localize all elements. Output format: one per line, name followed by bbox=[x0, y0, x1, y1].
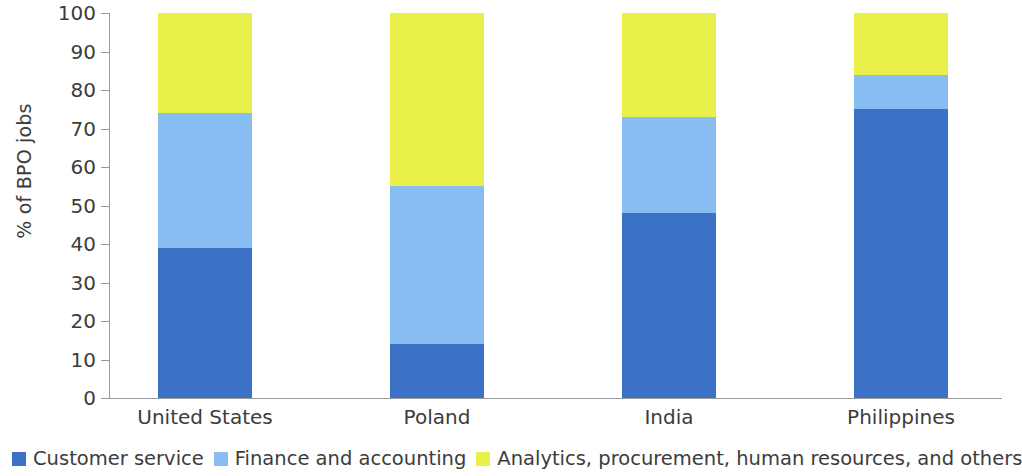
bar-segment-customer-service[interactable] bbox=[390, 344, 484, 398]
tick-mark bbox=[101, 129, 109, 130]
bar-segment-finance-and-accounting[interactable] bbox=[390, 186, 484, 344]
bar-segment-analytics-other[interactable] bbox=[854, 13, 948, 75]
y-tick-label: 30 bbox=[71, 273, 96, 293]
tick-mark bbox=[101, 90, 109, 91]
y-tick-label: 0 bbox=[83, 388, 96, 408]
y-tick-label: 80 bbox=[71, 80, 96, 100]
tick-mark bbox=[101, 360, 109, 361]
legend-swatch-icon bbox=[476, 452, 490, 466]
legend-swatch-icon bbox=[12, 452, 26, 466]
bar-group-poland: Poland bbox=[390, 13, 484, 398]
y-tick-label: 90 bbox=[71, 42, 96, 62]
bar-group-india: India bbox=[622, 13, 716, 398]
legend-label: Finance and accounting bbox=[235, 449, 467, 469]
plot-area: 0 10 20 30 40 50 60 70 bbox=[109, 13, 1002, 398]
bar-group-united-states: United States bbox=[158, 13, 252, 398]
tick-mark bbox=[101, 52, 109, 53]
legend-swatch-icon bbox=[214, 452, 228, 466]
y-axis-title: % of BPO jobs bbox=[13, 81, 35, 261]
bar-stack bbox=[854, 13, 948, 398]
bar-stack bbox=[390, 13, 484, 398]
tick-mark bbox=[101, 398, 109, 399]
legend-item-finance-and-accounting[interactable]: Finance and accounting bbox=[214, 449, 467, 469]
bar-segment-analytics-other[interactable] bbox=[158, 13, 252, 113]
y-tick-label: 100 bbox=[58, 3, 96, 23]
tick-mark bbox=[101, 244, 109, 245]
chart-legend: Customer service Finance and accounting … bbox=[12, 449, 1022, 469]
y-tick-label: 70 bbox=[71, 119, 96, 139]
tick-mark bbox=[101, 13, 109, 14]
bar-segment-customer-service[interactable] bbox=[854, 109, 948, 398]
legend-item-customer-service[interactable]: Customer service bbox=[12, 449, 204, 469]
bar-stack bbox=[622, 13, 716, 398]
bar-segment-customer-service[interactable] bbox=[158, 248, 252, 398]
bar-stack bbox=[158, 13, 252, 398]
tick-mark bbox=[101, 283, 109, 284]
bar-segment-customer-service[interactable] bbox=[622, 213, 716, 398]
x-axis-label-united-states: United States bbox=[137, 405, 272, 429]
legend-label: Customer service bbox=[33, 449, 204, 469]
y-tick-label: 50 bbox=[71, 196, 96, 216]
y-tick-label: 40 bbox=[71, 234, 96, 254]
y-tick-label: 60 bbox=[71, 157, 96, 177]
y-axis-line bbox=[109, 13, 110, 398]
x-axis-label-india: India bbox=[644, 405, 693, 429]
bar-segment-analytics-other[interactable] bbox=[390, 13, 484, 186]
legend-item-analytics-other[interactable]: Analytics, procurement, human resources,… bbox=[476, 449, 1022, 469]
bar-group-philippines: Philippines bbox=[854, 13, 948, 398]
tick-mark bbox=[101, 206, 109, 207]
legend-label: Analytics, procurement, human resources,… bbox=[497, 449, 1022, 469]
bar-segment-finance-and-accounting[interactable] bbox=[158, 113, 252, 248]
bar-segment-analytics-other[interactable] bbox=[622, 13, 716, 117]
x-axis-label-poland: Poland bbox=[404, 405, 471, 429]
x-axis-label-philippines: Philippines bbox=[847, 405, 955, 429]
bar-segment-finance-and-accounting[interactable] bbox=[854, 75, 948, 110]
y-tick-label: 10 bbox=[71, 350, 96, 370]
bar-segment-finance-and-accounting[interactable] bbox=[622, 117, 716, 213]
x-axis-line bbox=[101, 398, 1002, 399]
tick-mark bbox=[101, 167, 109, 168]
y-tick-label: 20 bbox=[71, 311, 96, 331]
tick-mark bbox=[101, 321, 109, 322]
